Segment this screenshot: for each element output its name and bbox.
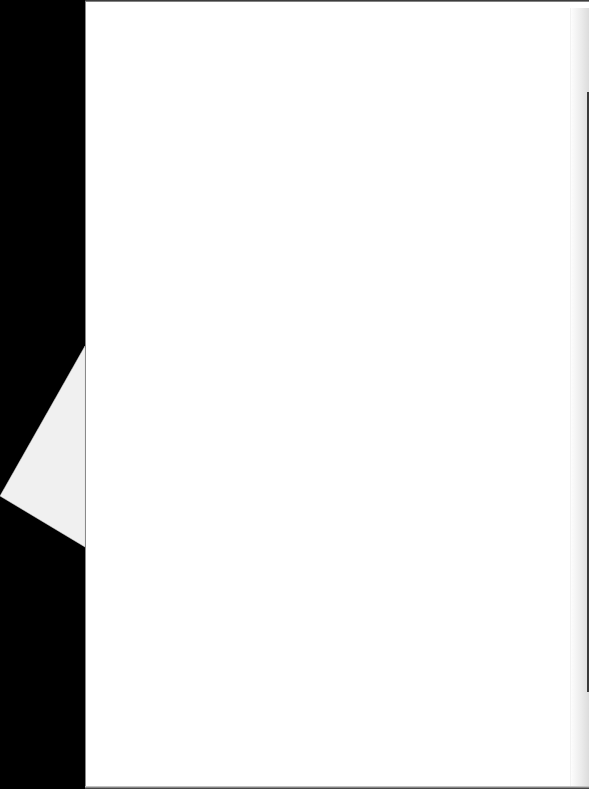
scan-scene [0,0,589,789]
folded-corner [0,0,86,789]
page-body [86,2,571,787]
blank-page [85,2,589,787]
